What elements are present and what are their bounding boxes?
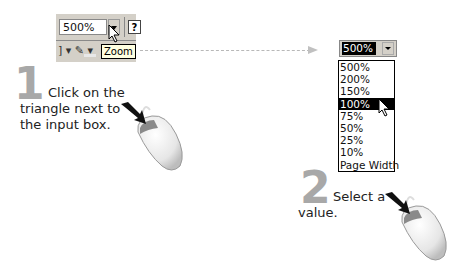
dashed-arrow-icon — [308, 46, 318, 54]
step1-text-line1: Click on the — [48, 84, 125, 101]
step2-text-line2: value. — [298, 204, 338, 221]
zoom-option-150[interactable]: 150% — [339, 85, 394, 97]
toolbar-snippet: 500% ? ] ▾ ✎ ▾ Zoom — [56, 14, 136, 62]
pencil-color-bar — [84, 54, 96, 57]
step1-text-line3: the input box. — [20, 116, 111, 133]
zoom-combobox-value[interactable]: 500% — [342, 42, 376, 55]
mouse-device-icon — [118, 96, 198, 176]
toolbar-row-top: 500% ? — [56, 14, 136, 41]
zoom-tooltip: Zoom — [101, 44, 136, 59]
dashed-arrow-line — [140, 50, 310, 51]
step2-text-line1: Select a — [333, 188, 385, 205]
step1-text-line2: triangle next to — [20, 100, 120, 117]
zoom-combobox[interactable]: 500% — [59, 19, 107, 35]
zoom-option-page-width[interactable]: Page Width — [339, 159, 394, 171]
zoom-combobox-open[interactable]: 500% — [339, 40, 397, 57]
help-icon[interactable]: ? — [128, 20, 141, 34]
zoom-option-200[interactable]: 200% — [339, 73, 394, 85]
mouse-pointer-icon — [378, 98, 392, 118]
zoom-option-50[interactable]: 50% — [339, 122, 394, 134]
mouse-device-icon — [384, 186, 464, 266]
zoom-option-10[interactable]: 10% — [339, 146, 394, 158]
mouse-pointer-icon — [108, 24, 122, 44]
toolbar-separator — [124, 17, 125, 37]
zoom-option-25[interactable]: 25% — [339, 134, 394, 146]
dropdown-triangle-icon[interactable] — [382, 42, 394, 55]
zoom-option-500[interactable]: 500% — [339, 61, 394, 73]
